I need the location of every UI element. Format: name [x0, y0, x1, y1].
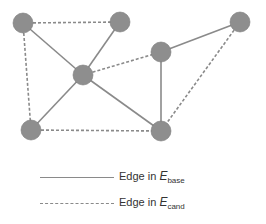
legend-item-cand: Edge in Ecand — [40, 195, 185, 211]
edge-base-n5-n3 — [161, 22, 240, 52]
graph-edges — [23, 22, 240, 131]
legend-item-base: Edge in Ebase — [40, 169, 185, 185]
edge-base-n4-n6 — [31, 75, 83, 130]
dashed-line-swatch — [40, 203, 114, 204]
legend-label-base: Edge in Ebase — [119, 169, 185, 185]
edge-cand-n4-n5 — [83, 52, 161, 75]
edge-cand-n6-n7 — [31, 130, 161, 131]
node-n4 — [73, 65, 93, 85]
edge-base-n4-n7 — [83, 75, 161, 131]
edge-cand-n1-n6 — [23, 23, 31, 130]
legend-label-cand: Edge in Ecand — [119, 195, 185, 211]
solid-line-swatch — [40, 177, 114, 178]
node-n7 — [151, 121, 171, 141]
edge-cand-n1-n2 — [23, 22, 120, 23]
graph-diagram — [0, 0, 266, 150]
edge-base-n1-n4 — [23, 23, 83, 75]
edge-cand-n3-n7 — [161, 22, 240, 131]
node-n2 — [110, 12, 130, 32]
node-n1 — [13, 13, 33, 33]
node-n3 — [230, 12, 250, 32]
node-n5 — [151, 42, 171, 62]
node-n6 — [21, 120, 41, 140]
